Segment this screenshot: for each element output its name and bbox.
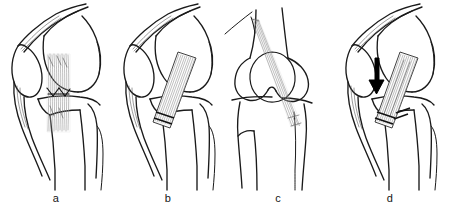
tension-arrow-icon: [369, 58, 384, 94]
fibula: [88, 104, 103, 190]
panel-b: b: [112, 0, 224, 215]
patella: [124, 45, 154, 97]
patella: [12, 45, 42, 97]
graft-diagonal-strip: [251, 17, 301, 127]
fibula: [422, 104, 437, 190]
guide-line: [225, 12, 252, 34]
panel-d: d: [334, 0, 446, 215]
fibula: [200, 104, 215, 190]
panel-a: a: [0, 0, 112, 215]
panel-c: c: [222, 0, 334, 215]
surgical-technique-figure: a: [0, 0, 449, 215]
panel-c-label: c: [222, 192, 334, 204]
panel-a-label: a: [0, 192, 112, 204]
graft-oblique-strip: [153, 52, 196, 128]
graft-oblique-strip: [375, 52, 418, 128]
patella: [346, 45, 376, 97]
panel-b-label: b: [112, 192, 224, 204]
graft-vertical-hatched: [47, 54, 70, 132]
panel-d-label: d: [334, 192, 446, 204]
